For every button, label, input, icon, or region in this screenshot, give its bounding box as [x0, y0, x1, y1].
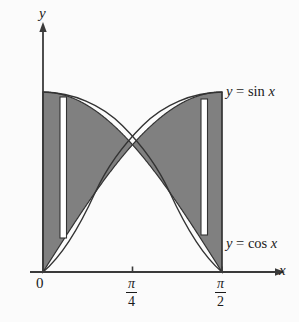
x-axis-label: x — [279, 263, 286, 278]
fraction-pi-over-4: π 4 — [126, 277, 137, 309]
fraction-numerator: π — [215, 277, 226, 292]
fraction-denominator: 4 — [126, 294, 137, 309]
fraction-denominator: 2 — [215, 294, 226, 309]
cosine-label-equals: = — [232, 235, 247, 251]
fraction-bar — [215, 292, 226, 293]
cosine-label-function: cos — [248, 235, 267, 251]
sine-curve-label: y = sin x — [226, 84, 275, 99]
cosine-label-argument: x — [271, 235, 277, 251]
y-axis-arrowhead — [39, 22, 46, 32]
shaded-region-group — [43, 92, 222, 272]
x-tick-label-pi-over-4: π 4 — [126, 277, 137, 309]
sine-label-argument: x — [268, 83, 274, 99]
fraction-bar — [126, 292, 137, 293]
sine-label-equals: = — [232, 83, 247, 99]
figure-container: y x y = sin x y = cos x 0 π 4 π 2 — [0, 0, 299, 322]
representative-rectangle-right — [201, 99, 208, 235]
x-tick-label-origin: 0 — [36, 276, 44, 291]
y-axis-label: y — [39, 6, 46, 21]
plot-canvas — [0, 0, 299, 322]
x-tick-label-pi-over-2: π 2 — [215, 277, 226, 309]
representative-rectangle-left — [60, 97, 67, 238]
cosine-curve-label: y = cos x — [226, 236, 277, 251]
fraction-numerator: π — [126, 277, 137, 292]
shaded-lobe-left — [43, 92, 133, 272]
sine-label-function: sin — [248, 83, 265, 99]
fraction-pi-over-2: π 2 — [215, 277, 226, 309]
shaded-lobe-right — [133, 92, 223, 272]
